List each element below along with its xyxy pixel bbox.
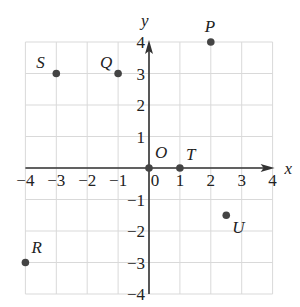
x-tick-label: 1: [176, 171, 185, 190]
coordinate-plane-svg: −4−3−2−101234−4−3−2−11234 PQSOTUR x y: [0, 0, 300, 307]
point-s-label: S: [36, 53, 45, 72]
point-u-label: U: [232, 218, 246, 237]
x-tick-label: 2: [207, 171, 216, 190]
point-u-marker: [222, 211, 230, 219]
x-tick-label: −2: [78, 171, 96, 190]
y-tick-label: −2: [127, 222, 145, 241]
point-r-marker: [22, 259, 30, 267]
y-axis-label: y: [139, 11, 149, 30]
point-p-marker: [207, 38, 215, 46]
point-t-label: T: [186, 145, 197, 164]
y-tick-label: −1: [127, 191, 145, 210]
y-tick-label: 3: [137, 65, 146, 84]
point-t-marker: [176, 164, 184, 172]
coordinate-plane: −4−3−2−101234−4−3−2−11234 PQSOTUR x y: [0, 0, 300, 307]
point-o-label: O: [155, 143, 167, 162]
x-tick-label: 0: [151, 171, 160, 190]
point-o-marker: [145, 164, 153, 172]
point-r-label: R: [30, 238, 42, 257]
y-tick-label: 2: [137, 96, 146, 115]
x-tick-label: −3: [47, 171, 65, 190]
x-tick-label: 4: [268, 171, 277, 190]
y-tick-label: 1: [137, 128, 146, 147]
x-tick-label: −1: [109, 171, 127, 190]
y-tick-label: −4: [127, 285, 146, 304]
point-p-label: P: [204, 17, 215, 36]
x-tick-label: −4: [16, 171, 35, 190]
point-q-marker: [114, 70, 122, 78]
x-tick-label: 3: [237, 171, 246, 190]
point-s-marker: [53, 70, 61, 78]
y-tick-label: −3: [127, 254, 145, 273]
point-q-label: Q: [100, 53, 112, 72]
x-axis-label: x: [284, 159, 293, 178]
y-tick-label: 4: [137, 33, 146, 52]
